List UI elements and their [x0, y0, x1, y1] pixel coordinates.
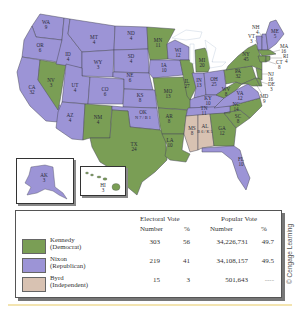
state-ri[interactable] — [266, 56, 270, 62]
candidate-byrd: Byrd(Independent) — [50, 274, 88, 288]
label-il: IL27 — [184, 78, 190, 89]
kennedy-swatch — [22, 239, 46, 254]
byrd-pv-percent: ---- — [254, 276, 274, 284]
nixon-swatch — [22, 258, 46, 273]
label-vt: VT3 — [248, 33, 256, 44]
subheader-ev-number: Number — [140, 225, 163, 233]
label-pa: PA32 — [235, 68, 241, 79]
copyright-credit: © Cengage Learning — [286, 226, 300, 296]
byrd-pv-number: 501,643 — [200, 276, 248, 284]
label-wi: WI12 — [175, 47, 182, 58]
subheader-ev-percent: % — [184, 225, 190, 233]
label-mi: MI20 — [199, 57, 206, 68]
label-ia: IA10 — [161, 62, 167, 73]
nixon-ev-percent: 41 — [174, 257, 190, 265]
label-fl: FL10 — [238, 156, 244, 167]
alaska-inset: AK3 — [16, 158, 74, 204]
legend-row-byrd: Byrd(Independent) 15 3 501,643 ---- — [16, 273, 281, 295]
nixon-pv-number: 34,108,157 — [200, 257, 248, 265]
candidate-kennedy: Kennedy(Democrat) — [50, 236, 81, 250]
subheader-pv-number: Number — [210, 225, 233, 233]
kennedy-pv-percent: 49.7 — [254, 238, 274, 246]
state-ak[interactable]: AK3 — [17, 159, 73, 203]
hawaii-inset: HI3 — [80, 166, 126, 196]
state-wa[interactable] — [32, 14, 64, 40]
candidate-nixon: Nixon(Republican) — [50, 255, 85, 269]
label-ct: CT8 — [276, 59, 283, 70]
lake-superior — [172, 30, 202, 40]
state-fl[interactable] — [202, 146, 250, 190]
state-ar[interactable] — [158, 108, 187, 134]
label-hi: HI3 — [100, 182, 106, 193]
byrd-ev-percent: 3 — [174, 276, 190, 284]
kennedy-pv-number: 34,226,731 — [200, 238, 248, 246]
label-de: DE3 — [268, 81, 275, 92]
state-hi[interactable]: HI3 — [81, 167, 125, 195]
results-legend: Electoral Vote Popular Vote Number % Num… — [15, 210, 282, 298]
nixon-ev-number: 219 — [136, 257, 160, 265]
bottom-rule — [8, 304, 292, 306]
lake-michigan — [190, 44, 194, 64]
label-in: IN13 — [196, 77, 202, 88]
kennedy-ev-number: 303 — [136, 238, 160, 246]
byrd-ev-number: 15 — [136, 276, 160, 284]
byrd-swatch — [22, 277, 46, 292]
subheader-pv-percent: % — [261, 225, 267, 233]
label-ri: RI4 — [283, 53, 288, 64]
kennedy-ev-percent: 56 — [174, 238, 190, 246]
state-ma[interactable] — [258, 50, 276, 56]
header-electoral-vote: Electoral Vote — [140, 215, 180, 223]
nixon-pv-percent: 49.5 — [254, 257, 274, 265]
header-popular-vote: Popular Vote — [221, 215, 257, 223]
